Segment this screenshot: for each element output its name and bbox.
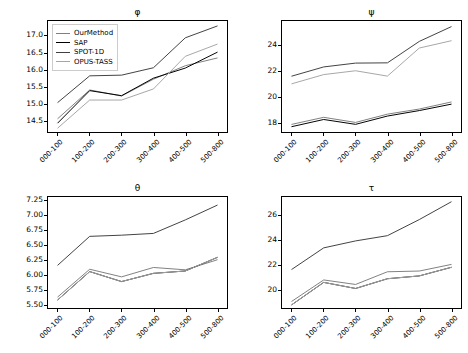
x-tick-mark [291, 133, 292, 136]
x-tick-mark [355, 133, 356, 136]
series-line-spot-1d [58, 205, 217, 265]
y-tick-label: 24 [235, 41, 277, 49]
legend-label: SAP [74, 39, 88, 47]
y-tick-label: 6.00 [1, 271, 43, 279]
y-tick-mark [44, 305, 47, 306]
x-tick-label: 200-300 [314, 138, 363, 187]
series-line-opus-tass [292, 267, 451, 304]
y-tick-label: 22 [235, 67, 277, 75]
y-tick-mark [278, 97, 281, 98]
y-tick-label: 26 [235, 211, 277, 219]
series-line-sap [58, 257, 217, 299]
x-tick-label: 100-200 [47, 314, 96, 353]
legend-item-ourmethod[interactable]: OurMethod [56, 29, 113, 38]
legend-line-icon [56, 52, 70, 53]
legend-label: OurMethod [74, 29, 113, 37]
legend-line-icon [56, 33, 70, 34]
x-tick-label: 500-800 [410, 314, 459, 353]
x-tick-mark [186, 309, 187, 312]
y-tick-label: 18 [235, 119, 277, 127]
y-tick-mark [44, 35, 47, 36]
y-tick-label: 6.75 [1, 226, 43, 234]
y-tick-label: 7.25 [1, 196, 43, 204]
series-line-ourmethod [292, 102, 451, 124]
x-tick-label: 500-800 [176, 314, 225, 353]
x-tick-mark [323, 133, 324, 136]
plot-area [281, 196, 462, 309]
series-layer [282, 197, 461, 308]
x-tick-label: 200-300 [80, 314, 129, 353]
y-tick-mark [44, 87, 47, 88]
x-tick-mark [388, 133, 389, 136]
x-tick-label: 300-400 [346, 138, 395, 187]
y-tick-label: 17.0 [1, 31, 43, 39]
y-tick-label: 20 [235, 93, 277, 101]
y-tick-mark [278, 290, 281, 291]
chart-title: τ [281, 183, 462, 194]
y-tick-mark [44, 290, 47, 291]
y-tick-label: 6.50 [1, 241, 43, 249]
legend-item-opus-tass[interactable]: OPUS-TASS [56, 57, 113, 66]
x-tick-label: 100-200 [47, 138, 96, 187]
series-line-ourmethod [58, 260, 217, 297]
x-tick-mark [154, 133, 155, 136]
y-tick-mark [278, 71, 281, 72]
series-line-sap [292, 104, 451, 126]
x-tick-mark [218, 133, 219, 136]
plot-area [281, 20, 462, 133]
x-tick-label: 100-200 [281, 138, 330, 187]
legend-item-spot-1d[interactable]: SPOT-1D [56, 48, 113, 57]
y-tick-mark [278, 45, 281, 46]
x-tick-mark [420, 133, 421, 136]
x-tick-label: 400-500 [378, 138, 427, 187]
x-tick-mark [186, 133, 187, 136]
x-tick-mark [291, 309, 292, 312]
series-line-spot-1d [292, 202, 451, 269]
x-tick-label: 100-200 [281, 314, 330, 353]
x-tick-mark [452, 309, 453, 312]
y-tick-label: 14.5 [1, 117, 43, 125]
y-tick-label: 22 [235, 261, 277, 269]
x-tick-mark [355, 309, 356, 312]
x-tick-mark [57, 133, 58, 136]
y-tick-mark [44, 53, 47, 54]
series-line-spot-1d [292, 27, 451, 76]
x-tick-mark [154, 309, 155, 312]
y-tick-mark [278, 215, 281, 216]
x-tick-mark [57, 309, 58, 312]
x-tick-mark [121, 133, 122, 136]
x-tick-label: 000-100 [15, 138, 64, 187]
y-tick-label: 7.00 [1, 211, 43, 219]
y-tick-label: 5.50 [1, 301, 43, 309]
x-tick-mark [420, 309, 421, 312]
x-tick-label: 200-300 [314, 314, 363, 353]
x-tick-label: 200-300 [80, 138, 129, 187]
x-tick-label: 300-400 [112, 314, 161, 353]
x-tick-label: 300-400 [112, 138, 161, 187]
x-tick-mark [452, 133, 453, 136]
y-tick-label: 5.75 [1, 286, 43, 294]
chart-title: φ [47, 7, 228, 18]
y-tick-mark [44, 104, 47, 105]
x-tick-label: 000-100 [15, 314, 64, 353]
series-layer [282, 21, 461, 132]
y-tick-label: 20 [235, 286, 277, 294]
y-tick-label: 24 [235, 236, 277, 244]
y-tick-mark [44, 245, 47, 246]
series-line-opus-tass [292, 41, 451, 84]
legend-item-sap[interactable]: SAP [56, 38, 113, 47]
series-line-sap [292, 267, 451, 304]
figure-canvas: φ14.515.015.516.016.517.0000-100100-2002… [0, 0, 468, 353]
x-tick-label: 400-500 [144, 314, 193, 353]
x-tick-mark [388, 309, 389, 312]
y-tick-mark [44, 121, 47, 122]
y-tick-label: 16.5 [1, 49, 43, 57]
y-tick-mark [44, 260, 47, 261]
y-tick-label: 15.5 [1, 83, 43, 91]
x-tick-label: 400-500 [378, 314, 427, 353]
legend-label: SPOT-1D [74, 48, 104, 56]
chart-title: ψ [281, 7, 462, 18]
legend-line-icon [56, 42, 70, 43]
x-tick-mark [89, 133, 90, 136]
plot-area [47, 196, 228, 309]
